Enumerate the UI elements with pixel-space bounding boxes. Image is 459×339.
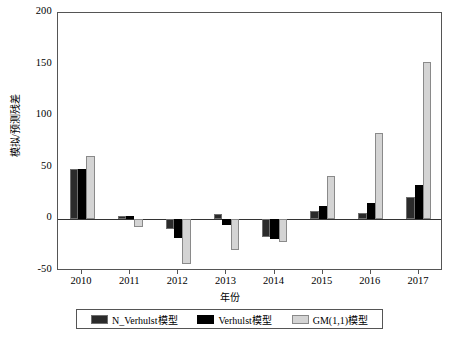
x-tick-mark [370, 270, 371, 274]
legend-swatch-icon [292, 315, 309, 324]
y-tick-label: 0 [10, 212, 52, 222]
bar [358, 213, 366, 219]
bar [126, 216, 134, 219]
bar [262, 219, 270, 237]
x-tick-label: 2010 [58, 275, 104, 286]
bar [327, 176, 335, 219]
y-tick-label: 200 [10, 6, 52, 16]
bar [406, 197, 414, 220]
x-tick-label: 2011 [106, 275, 152, 286]
bar [134, 219, 142, 226]
chart-figure: 模拟/预测残差 -5005010015020020102011201220132… [0, 0, 459, 339]
bar [70, 169, 78, 220]
chart-legend: N_Verhulst模型Verhulst模型GM(1,1)模型 [76, 309, 383, 329]
x-tick-mark [177, 270, 178, 274]
bar [182, 219, 190, 263]
x-tick-mark [81, 270, 82, 274]
figure-caption [0, 331, 459, 339]
bar [310, 211, 318, 219]
legend-label: N_Verhulst模型 [112, 312, 178, 327]
x-tick-label: 2013 [202, 275, 248, 286]
legend-label: Verhulst模型 [218, 312, 271, 327]
legend-swatch-icon [197, 315, 214, 324]
y-tick-label: 100 [10, 109, 52, 119]
bar [279, 219, 287, 242]
plot-area [57, 12, 442, 270]
x-tick-label: 2015 [299, 275, 345, 286]
legend-swatch-icon [91, 315, 108, 324]
x-tick-label: 2012 [154, 275, 200, 286]
bar [270, 219, 278, 239]
legend-label: GM(1,1)模型 [313, 312, 368, 327]
x-tick-mark [418, 270, 419, 274]
bar [86, 156, 94, 219]
y-tick-label: 150 [10, 58, 52, 68]
legend-item[interactable]: GM(1,1)模型 [292, 312, 368, 327]
bar [423, 62, 431, 220]
x-tick-label: 2016 [347, 275, 393, 286]
zero-baseline [58, 219, 441, 220]
x-tick-mark [274, 270, 275, 274]
x-tick-label: 2014 [251, 275, 297, 286]
bar [78, 169, 86, 220]
x-tick-label: 2017 [395, 275, 441, 286]
y-tick-label: 50 [10, 161, 52, 171]
bar [214, 214, 222, 219]
x-tick-mark [129, 270, 130, 274]
bar [118, 216, 126, 219]
bar [231, 219, 239, 250]
x-tick-mark [225, 270, 226, 274]
bar [222, 219, 230, 224]
bar [375, 133, 383, 220]
legend-item[interactable]: N_Verhulst模型 [91, 312, 178, 327]
y-tick-label: -50 [10, 264, 52, 274]
bar [367, 203, 375, 220]
bar [319, 206, 327, 219]
bar [415, 185, 423, 219]
x-tick-mark [322, 270, 323, 274]
bar [166, 219, 174, 228]
x-axis-title: 年份 [0, 289, 459, 304]
legend-item[interactable]: Verhulst模型 [197, 312, 271, 327]
bar [174, 219, 182, 238]
